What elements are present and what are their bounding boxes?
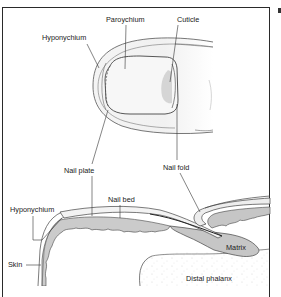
fingertip-top-view [93,38,213,134]
label-skin: Skin [8,260,22,269]
label-nail-bed: Nail bed [108,195,135,204]
label-paroychium: Paroychium [106,15,145,24]
label-cuticle: Cuticle [177,15,199,24]
label-nail-plate: Nail plate [64,166,94,175]
label-matrix: Matrix [226,243,246,252]
nail-cross-section [38,196,270,286]
label-distal-phalanx: Distal phalanx [186,274,232,283]
label-hyponychium-top: Hyponychium [42,33,86,42]
label-hyponychium-section: Hyponychium [10,205,54,214]
label-nail-fold: Nail fold [163,163,189,172]
